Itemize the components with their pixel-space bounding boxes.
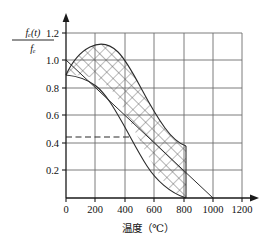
xtick-label-1200: 1200 — [232, 204, 253, 215]
ytick-label-1.0: 1.0 — [46, 55, 59, 66]
y-axis-tick-labels: 1.2 1.0 0.8 0.6 0.4 0.2 — [46, 28, 60, 176]
temperature-strength-chart: 1.2 1.0 0.8 0.6 0.4 0.2 0 200 400 600 80… — [0, 0, 263, 240]
y-axis-title-numerator: fₑ(t) — [26, 27, 42, 39]
figure-container: 1.2 1.0 0.8 0.6 0.4 0.2 0 200 400 600 80… — [0, 0, 263, 240]
x-axis-title: 温度（℃） — [122, 222, 174, 234]
xtick-label-1000: 1000 — [203, 204, 224, 215]
xtick-label-0: 0 — [63, 204, 68, 215]
ytick-label-0.4: 0.4 — [46, 138, 60, 149]
xtick-label-200: 200 — [87, 204, 103, 215]
ytick-label-0.6: 0.6 — [46, 110, 59, 121]
ytick-label-0.8: 0.8 — [46, 83, 59, 94]
ytick-label-1.2: 1.2 — [46, 28, 59, 39]
xtick-label-800: 800 — [176, 204, 192, 215]
y-axis-title-denominator: fₑ — [30, 43, 36, 54]
y-axis-arrow — [63, 13, 70, 22]
ytick-label-0.2: 0.2 — [46, 165, 59, 176]
xtick-label-400: 400 — [117, 204, 133, 215]
x-axis-tick-labels: 0 200 400 600 800 1000 1200 — [63, 204, 252, 215]
x-axis-arrow — [250, 195, 259, 202]
xtick-label-600: 600 — [146, 204, 162, 215]
